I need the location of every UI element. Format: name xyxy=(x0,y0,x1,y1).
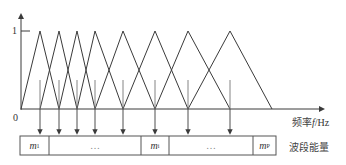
y-tick-label: 1 xyxy=(12,25,17,36)
cell-mi: mi xyxy=(141,136,169,155)
x-axis-unit: /Hz xyxy=(315,117,329,128)
band-arrows xyxy=(40,80,230,132)
cell-ellipsis-1: … xyxy=(49,136,141,155)
cell-m1: m1 xyxy=(20,136,49,155)
cell-label: m xyxy=(151,140,158,151)
triangle-filter xyxy=(77,31,123,109)
cell-label: … xyxy=(90,140,100,151)
band-energy-label: 波段能量 xyxy=(289,139,329,154)
triangle-filter xyxy=(40,31,77,109)
triangle-filter xyxy=(155,31,230,109)
cell-label: m xyxy=(29,140,36,151)
cell-label: … xyxy=(206,140,216,151)
triangle-filter xyxy=(123,31,188,109)
origin-label: 0 xyxy=(13,112,18,123)
x-axis-label-text: 频率 xyxy=(292,117,312,128)
cell-ellipsis-2: … xyxy=(169,136,253,155)
triangle-filter xyxy=(95,31,155,109)
cell-sub: P xyxy=(266,143,269,149)
cell-sub: i xyxy=(158,143,160,149)
cell-mp: mP xyxy=(253,136,276,155)
cell-sub: 1 xyxy=(37,143,40,149)
cell-label: m xyxy=(259,140,266,151)
x-axis-label: 频率f/Hz xyxy=(292,114,329,129)
